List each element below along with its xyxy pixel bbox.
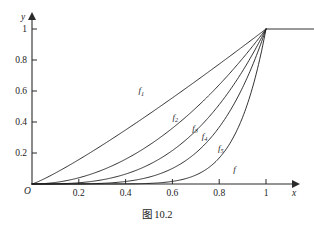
origin-label: O [24, 186, 31, 196]
curve-f3 [32, 29, 266, 184]
y-tick-label-0.2: 0.2 [15, 148, 27, 158]
curves-group [32, 29, 314, 184]
x-tick-label-0.8: 0.8 [213, 188, 225, 198]
y-axis-arrow-icon [28, 12, 36, 20]
y-tick-label-0.6: 0.6 [15, 86, 27, 96]
x-axis-label: x [291, 188, 297, 198]
y-tick-label-0.8: 0.8 [15, 55, 27, 65]
curve-label-f3: f3 [192, 123, 198, 134]
x-tick-label-0.2: 0.2 [73, 188, 85, 198]
x-tick-label-0.4: 0.4 [120, 188, 132, 198]
curve-label-f: f [233, 164, 237, 174]
y-tick-marks [32, 29, 37, 153]
x-axis-arrow-icon [292, 180, 300, 188]
curve-label-f4: f4 [202, 131, 208, 142]
x-tick-label-1: 1 [264, 188, 269, 198]
curve-f1 [32, 29, 266, 184]
x-tick-label-0.6: 0.6 [166, 188, 178, 198]
curve-f2 [32, 29, 266, 184]
y-tick-label-0.4: 0.4 [15, 117, 27, 127]
curve-label-f5: f5 [218, 143, 224, 154]
y-axis-label: y [20, 12, 26, 22]
y-tick-labels: 0.2 0.4 0.6 0.8 1 [15, 24, 27, 158]
figure-plot: 0.2 0.4 0.6 0.8 1 0.2 0.4 0.6 0.8 1 O x … [0, 0, 314, 234]
curve-labels-group: f1f2f3f4f5f [138, 85, 237, 174]
x-tick-labels: 0.2 0.4 0.6 0.8 1 [73, 188, 269, 198]
curve-f5 [32, 29, 266, 184]
curve-label-f2: f2 [172, 112, 178, 123]
curve-f4 [32, 29, 266, 184]
curve-label-f1: f1 [138, 85, 144, 96]
figure-caption: 图 10.2 [0, 206, 314, 221]
y-tick-label-1: 1 [22, 24, 27, 34]
